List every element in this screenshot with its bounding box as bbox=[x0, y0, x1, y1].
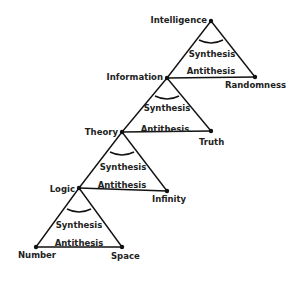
label-truth: Truth bbox=[199, 137, 224, 147]
dialectic-diagram: Intelligence Information Randomness Theo… bbox=[0, 0, 293, 282]
synthesis-label-2: Synthesis bbox=[144, 103, 191, 113]
synthesis-arc bbox=[110, 152, 134, 155]
label-space: Space bbox=[111, 251, 140, 261]
node-dot-truth bbox=[209, 129, 213, 133]
node-dot-theory bbox=[120, 130, 124, 134]
node-dot-space bbox=[120, 245, 124, 249]
label-randomness: Randomness bbox=[225, 80, 286, 90]
synthesis-arc bbox=[67, 209, 91, 212]
label-theory: Theory bbox=[85, 127, 119, 137]
synthesis-arc bbox=[155, 96, 179, 99]
node-dot-intelligence bbox=[209, 19, 213, 23]
synthesis-label-1: Synthesis bbox=[189, 49, 236, 59]
synthesis-label-4: Synthesis bbox=[56, 220, 103, 230]
label-infinity: Infinity bbox=[152, 194, 187, 204]
label-number: Number bbox=[18, 250, 57, 260]
antithesis-label-1: Antithesis bbox=[187, 66, 236, 76]
node-dot-logic bbox=[77, 186, 81, 190]
synthesis-arc bbox=[199, 40, 223, 43]
node-dot-number bbox=[34, 245, 38, 249]
node-dot-randomness bbox=[253, 75, 257, 79]
node-dot-information bbox=[165, 76, 169, 80]
label-information: Information bbox=[107, 72, 163, 82]
antithesis-label-3: Antithesis bbox=[98, 180, 147, 190]
label-intelligence: Intelligence bbox=[151, 15, 208, 25]
antithesis-label-4: Antithesis bbox=[55, 238, 104, 248]
antithesis-label-2: Antithesis bbox=[141, 124, 190, 134]
synthesis-label-3: Synthesis bbox=[100, 162, 147, 172]
label-logic: Logic bbox=[50, 184, 75, 194]
node-dot-infinity bbox=[165, 189, 169, 193]
